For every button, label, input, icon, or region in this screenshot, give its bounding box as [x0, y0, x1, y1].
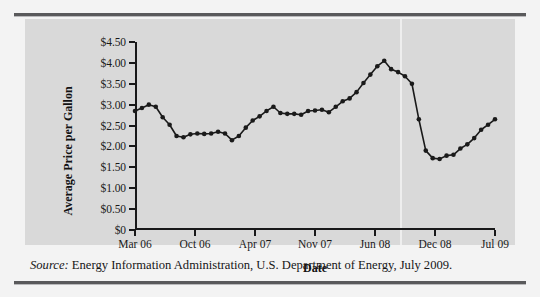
y-axis-title: Average Price per Gallon: [61, 38, 75, 264]
data-point: [299, 112, 304, 117]
plot-area: $0$0.50$1.00$1.50$2.00$2.50$3.00$3.50$4.…: [135, 42, 495, 230]
x-tick: [374, 230, 376, 236]
figure-caption: Source: Energy Information Administratio…: [30, 258, 510, 273]
y-tick-label: $3.50: [101, 78, 126, 90]
x-tick: [494, 230, 496, 236]
data-point: [237, 134, 242, 139]
x-tick-label: Dec 08: [419, 238, 452, 250]
data-point: [368, 72, 373, 77]
data-point: [486, 122, 491, 127]
data-point: [493, 117, 498, 122]
data-point: [292, 112, 297, 117]
y-tick-label: $0.50: [101, 203, 126, 215]
data-point: [243, 125, 248, 130]
data-point: [361, 81, 366, 86]
data-point: [347, 96, 352, 101]
data-point: [271, 104, 276, 109]
x-tick-label: Apr 07: [239, 238, 271, 250]
data-point: [223, 131, 228, 136]
data-point: [188, 132, 193, 137]
data-point: [140, 106, 145, 111]
y-tick-label: $4.00: [101, 57, 126, 69]
caption-source-label: Source:: [30, 258, 69, 272]
data-point: [444, 153, 449, 158]
data-point: [264, 109, 269, 114]
x-tick-label: Jun 08: [360, 238, 390, 250]
data-point: [257, 114, 262, 119]
data-point: [195, 131, 200, 136]
x-tick-label: Jul 09: [481, 238, 509, 250]
y-tick-label: $1.00: [101, 182, 126, 194]
data-point: [451, 153, 456, 158]
data-point: [216, 130, 221, 135]
data-point: [389, 67, 394, 72]
data-point: [403, 74, 408, 79]
x-tick: [134, 230, 136, 236]
x-tick: [194, 230, 196, 236]
figure-bottom-rule: [14, 281, 526, 284]
y-tick-label: $3.00: [101, 99, 126, 111]
data-point: [153, 104, 158, 109]
chart-panel: Average Price per Gallon Date $0$0.50$1.…: [25, 19, 515, 245]
data-point: [430, 156, 435, 161]
data-point: [396, 70, 401, 75]
figure-top-rule-shadow: [14, 16, 526, 17]
data-point: [167, 122, 172, 127]
y-tick-label: $1.50: [101, 161, 126, 173]
y-tick-label: $4.50: [101, 36, 126, 48]
data-point: [278, 111, 283, 116]
data-point: [133, 109, 138, 114]
x-tick-label: Mar 06: [118, 238, 152, 250]
figure-container: Average Price per Gallon Date $0$0.50$1.…: [0, 0, 540, 297]
data-point: [437, 157, 442, 162]
data-point: [458, 146, 463, 151]
y-tick-label: $2.50: [101, 120, 126, 132]
data-point: [202, 132, 207, 137]
data-point: [333, 104, 338, 109]
data-point: [465, 142, 470, 147]
data-point: [181, 135, 186, 140]
data-point: [209, 131, 214, 136]
data-point: [472, 136, 477, 141]
data-point: [174, 134, 179, 139]
y-tick-label: $0: [115, 224, 126, 236]
data-point: [327, 110, 332, 115]
data-point: [354, 90, 359, 95]
y-tick-label: $2.00: [101, 140, 126, 152]
data-point: [375, 64, 380, 69]
x-tick: [434, 230, 436, 236]
x-tick: [314, 230, 316, 236]
data-point: [410, 81, 415, 86]
data-point: [417, 117, 422, 122]
caption-source-text: Energy Information Administration, U.S. …: [72, 258, 452, 272]
data-point: [382, 59, 387, 64]
data-point: [285, 112, 290, 117]
data-point: [313, 108, 318, 113]
data-point: [147, 102, 152, 107]
x-tick-label: Oct 06: [180, 238, 211, 250]
x-tick-label: Nov 07: [298, 238, 332, 250]
price-line-series: [135, 42, 495, 230]
data-point: [160, 115, 165, 120]
data-point: [250, 118, 255, 123]
figure-bottom-rule-shadow: [14, 284, 526, 285]
data-point: [306, 109, 311, 114]
data-point: [320, 107, 325, 112]
data-point: [423, 148, 428, 153]
data-point: [479, 127, 484, 132]
x-tick: [254, 230, 256, 236]
data-point: [340, 99, 345, 104]
data-point: [230, 138, 235, 143]
